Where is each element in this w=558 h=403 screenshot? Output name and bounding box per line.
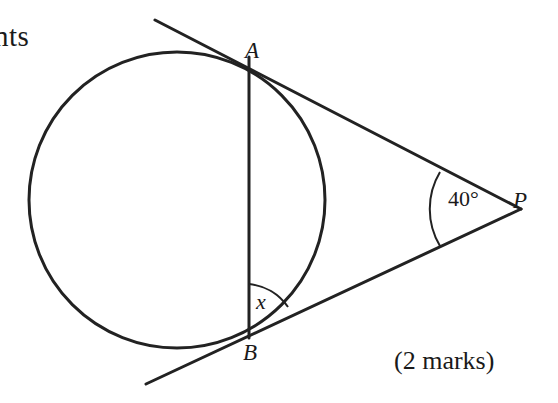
angle-label-x: x: [256, 289, 266, 315]
point-label-b: B: [243, 340, 257, 366]
point-label-a: A: [245, 38, 259, 64]
tangent-line-upper: [155, 20, 521, 209]
circle-shape: [29, 52, 325, 348]
point-label-p: P: [513, 188, 527, 214]
geometry-figure: nts A B P x 40° (2 marks): [0, 0, 558, 403]
angle-label-40: 40°: [448, 186, 479, 212]
angle-arc-at-p: [430, 172, 440, 246]
marks-note: (2 marks): [394, 346, 494, 376]
cropped-left-text: nts: [0, 20, 29, 53]
